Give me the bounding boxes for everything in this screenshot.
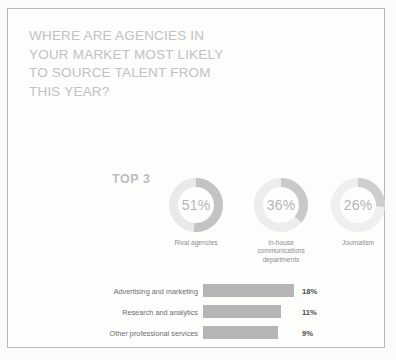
top3-label: TOP 3 [112,172,151,186]
donut-chart-rival-agencies: 51% [168,177,224,233]
bar-row: Advertising and marketing 18% [0,283,396,304]
donut-chart-in-house-communications: 36% [253,177,309,233]
bar-value-advertising-and-marketing: 18% [302,287,317,296]
bar-fill-research-and-analytics [203,305,281,318]
bar-track [203,326,278,339]
page-title: WHERE ARE AGENCIES IN YOUR MARKET MOST L… [29,27,279,101]
donut-group-journalism: 26% Journalism [330,177,386,233]
bar-label-research-and-analytics: Research and analytics [122,308,198,317]
bar-label-advertising-and-marketing: Advertising and marketing [114,287,198,296]
bar-value-research-and-analytics: 11% [302,308,317,317]
bar-track [203,305,281,318]
bar-value-other-professional-services: 9% [302,329,313,338]
bar-row: Research and analytics 11% [0,304,396,325]
bar-track [203,284,294,297]
bar-row: Other professional services 9% [0,325,396,346]
donut-group-rival-agencies: 51% Rival agencies [168,177,224,233]
infographic-frame: WHERE ARE AGENCIES IN YOUR MARKET MOST L… [7,8,385,348]
donut-label-journalism: Journalism [298,239,396,247]
bar-label-other-professional-services: Other professional services [110,329,198,338]
bar-fill-other-professional-services [203,326,278,339]
bar-chart: Advertising and marketing 18% Research a… [0,283,396,346]
donut-value-journalism: 26% [330,177,386,233]
donut-chart-journalism: 26% [330,177,386,233]
donut-value-in-house-communications: 36% [253,177,309,233]
donut-value-rival-agencies: 51% [168,177,224,233]
bar-fill-advertising-and-marketing [203,284,294,297]
donut-group-in-house-communications: 36% In-house communications departments [253,177,309,233]
